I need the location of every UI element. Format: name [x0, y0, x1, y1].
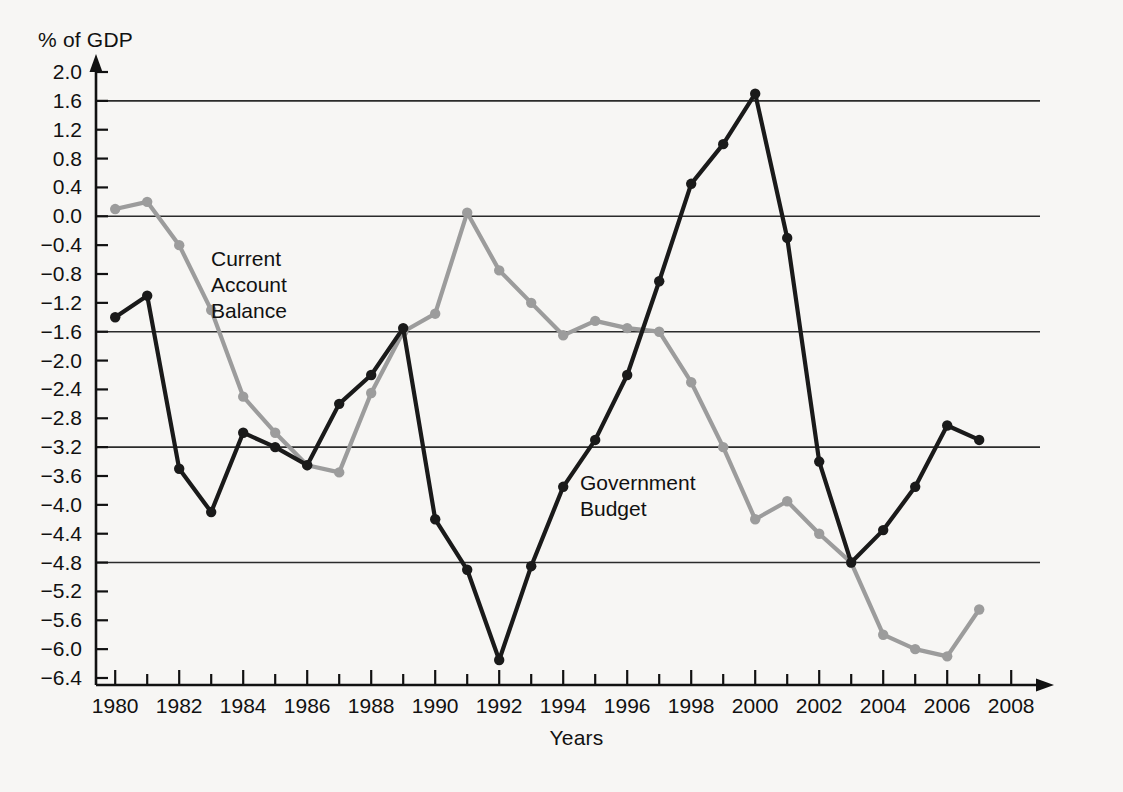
- data-point: [750, 514, 760, 524]
- x-axis-title-text: Years: [550, 726, 604, 749]
- y-axis-tick-label: −4.8: [0, 551, 82, 575]
- data-point: [814, 456, 824, 466]
- y-axis-arrow-icon: [90, 54, 103, 72]
- y-axis-tick-label: −3.2: [0, 435, 82, 459]
- data-point: [910, 482, 920, 492]
- y-axis-tick-label: −6.0: [0, 637, 82, 661]
- x-axis-tick-label: 1998: [668, 694, 715, 718]
- data-point: [270, 442, 280, 452]
- y-axis-tick-label: −2.8: [0, 406, 82, 430]
- y-axis-tick-label: −4.4: [0, 522, 82, 546]
- x-axis-tick-label: 1988: [348, 694, 395, 718]
- data-point: [238, 391, 248, 401]
- data-point: [622, 323, 632, 333]
- data-point: [142, 290, 152, 300]
- y-axis-tick-label: −0.4: [0, 233, 82, 257]
- y-axis-tick-label: −1.6: [0, 320, 82, 344]
- y-axis-title: % of GDP: [38, 28, 133, 52]
- x-axis-ticks: [115, 670, 1011, 685]
- data-point: [398, 323, 408, 333]
- y-axis-tick-label: −4.0: [0, 493, 82, 517]
- y-axis-tick-label: 0.8: [0, 147, 82, 171]
- y-axis-tick-label: −3.6: [0, 464, 82, 488]
- data-point: [654, 327, 664, 337]
- data-point: [846, 557, 856, 567]
- data-point: [494, 655, 504, 665]
- y-axis-tick-label: −6.4: [0, 666, 82, 690]
- data-series-group: [110, 88, 984, 665]
- data-point: [270, 428, 280, 438]
- data-point: [526, 561, 536, 571]
- x-axis-tick-label: 1980: [92, 694, 139, 718]
- x-axis-tick-label: 1984: [220, 694, 267, 718]
- data-point: [622, 370, 632, 380]
- data-point: [590, 316, 600, 326]
- x-axis-title: Years: [0, 726, 1123, 750]
- x-axis-tick-label: 1990: [412, 694, 459, 718]
- series-line: [115, 94, 979, 660]
- chart-plot-area: [0, 0, 1123, 792]
- data-point: [814, 529, 824, 539]
- data-point: [110, 312, 120, 322]
- chart-figure: % of GDP Years Current Account Balance G…: [0, 0, 1123, 792]
- y-axis-tick-label: 1.2: [0, 118, 82, 142]
- x-axis-tick-label: 2002: [796, 694, 843, 718]
- data-point: [430, 308, 440, 318]
- y-axis-ticks: [96, 72, 108, 678]
- x-axis-tick-label: 2008: [988, 694, 1035, 718]
- data-point: [174, 240, 184, 250]
- x-axis-arrow-icon: [1036, 679, 1054, 692]
- data-point: [430, 514, 440, 524]
- data-point: [686, 179, 696, 189]
- data-point: [206, 507, 216, 517]
- y-axis-tick-label: 0.4: [0, 175, 82, 199]
- y-axis-tick-label: −5.2: [0, 579, 82, 603]
- data-point: [462, 565, 472, 575]
- series-label-current-account-balance: Current Account Balance: [211, 246, 287, 324]
- data-point: [750, 88, 760, 98]
- y-axis-tick-label: −5.6: [0, 608, 82, 632]
- data-point: [878, 525, 888, 535]
- y-axis-tick-label: −0.8: [0, 262, 82, 286]
- data-point: [366, 370, 376, 380]
- data-point: [942, 651, 952, 661]
- data-point: [942, 420, 952, 430]
- data-point: [462, 207, 472, 217]
- data-point: [142, 197, 152, 207]
- data-point: [302, 460, 312, 470]
- data-point: [366, 388, 376, 398]
- series-government-budget: [110, 88, 984, 665]
- y-axis-tick-label: −2.0: [0, 349, 82, 373]
- data-point: [910, 644, 920, 654]
- x-axis-tick-label: 1986: [284, 694, 331, 718]
- data-point: [974, 435, 984, 445]
- x-axis-tick-label: 1994: [540, 694, 587, 718]
- data-point: [782, 233, 792, 243]
- x-axis-tick-label: 1996: [604, 694, 651, 718]
- data-point: [558, 330, 568, 340]
- y-axis-tick-label: −2.4: [0, 377, 82, 401]
- y-axis-tick-label: 0.0: [0, 204, 82, 228]
- x-axis-tick-label: 2004: [860, 694, 907, 718]
- data-point: [174, 464, 184, 474]
- data-point: [494, 265, 504, 275]
- y-axis-tick-label: 2.0: [0, 60, 82, 84]
- data-point: [334, 399, 344, 409]
- x-axis-tick-label: 1982: [156, 694, 203, 718]
- data-point: [878, 630, 888, 640]
- x-axis-tick-label: 2000: [732, 694, 779, 718]
- y-axis-tick-label: −1.2: [0, 291, 82, 315]
- data-point: [974, 604, 984, 614]
- x-axis-tick-label: 2006: [924, 694, 971, 718]
- data-point: [558, 482, 568, 492]
- data-point: [238, 428, 248, 438]
- x-axis-tick-label: 1992: [476, 694, 523, 718]
- series-label-government-budget: Government Budget: [580, 470, 696, 522]
- data-point: [334, 467, 344, 477]
- data-point: [526, 298, 536, 308]
- data-point: [718, 442, 728, 452]
- data-point: [782, 496, 792, 506]
- data-point: [590, 435, 600, 445]
- data-point: [686, 377, 696, 387]
- data-point: [110, 204, 120, 214]
